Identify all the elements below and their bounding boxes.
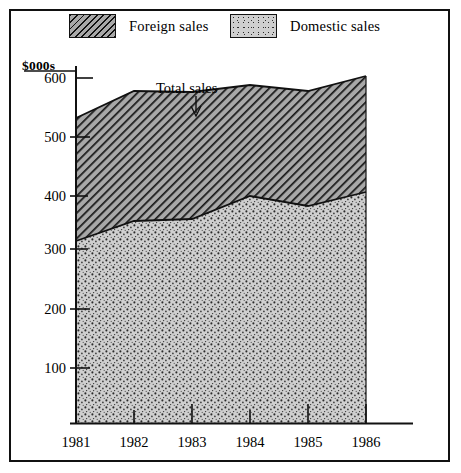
y-axis-label-100: 100 <box>22 360 66 377</box>
total-sales-annotation-label: Total sales <box>156 80 217 97</box>
x-axis-label-1983: 1983 <box>167 434 217 451</box>
x-axis-label-1982: 1982 <box>109 434 159 451</box>
y-axis-label-300: 300 <box>22 241 66 258</box>
y-axis-label-600: 600 <box>22 70 66 87</box>
y-axis-label-200: 200 <box>22 301 66 318</box>
x-axis-label-1981: 1981 <box>51 434 101 451</box>
plot-area <box>0 0 461 473</box>
x-axis-label-1986: 1986 <box>341 434 391 451</box>
x-axis-label-1984: 1984 <box>225 434 275 451</box>
y-axis-label-500: 500 <box>22 129 66 146</box>
x-axis-label-1985: 1985 <box>283 434 333 451</box>
chart-svg <box>0 0 461 473</box>
y-axis-label-400: 400 <box>22 188 66 205</box>
